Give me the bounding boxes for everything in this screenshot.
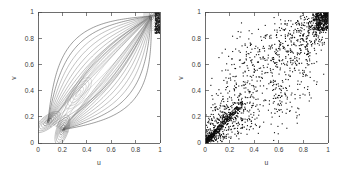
scatter-point [237, 109, 238, 110]
scatter-point [305, 75, 306, 76]
scatter-point [216, 93, 217, 94]
scatter-point [318, 41, 319, 42]
scatter-point [255, 46, 256, 47]
scatter-point [235, 108, 236, 109]
scatter-point [310, 71, 311, 72]
scatter-point [314, 40, 315, 41]
scatter-point [227, 92, 228, 93]
scatter-point [215, 107, 216, 108]
scatter-point [228, 109, 229, 110]
scatter-point [296, 24, 297, 25]
scatter-point [307, 48, 308, 49]
scatter-point [231, 58, 232, 59]
scatter-point [240, 118, 241, 119]
scatter-point [247, 119, 248, 120]
scatter-point [308, 18, 309, 19]
scatter-point [319, 33, 320, 34]
scatter-point [221, 127, 222, 128]
scatter-point [280, 68, 281, 69]
scatter-point [301, 63, 302, 64]
scatter-point [296, 64, 297, 65]
scatter-point [324, 24, 325, 25]
scatter-point [304, 94, 305, 95]
scatter-point [323, 32, 324, 33]
scatter-point [249, 110, 250, 111]
scatter-point [324, 22, 325, 23]
scatter-point [277, 126, 278, 127]
scatter-point [262, 78, 263, 79]
scatter-point [276, 54, 277, 55]
scatter-point [301, 44, 302, 45]
scatter-point [240, 102, 241, 103]
scatter-point [218, 114, 219, 115]
scatter-point [317, 18, 318, 19]
scatter-point [219, 134, 220, 135]
scatter-point [223, 121, 224, 122]
scatter-point [321, 26, 322, 27]
scatter-point [229, 114, 230, 115]
scatter-point [247, 110, 248, 111]
scatter-point [300, 39, 301, 40]
scatter-point [293, 60, 294, 61]
scatter-point [210, 129, 211, 130]
scatter-point [220, 103, 221, 104]
scatter-point [206, 125, 207, 126]
scatter-point [222, 105, 223, 106]
scatter-point [324, 42, 325, 43]
scatter-point [274, 44, 275, 45]
scatter-point [288, 75, 289, 76]
scatter-point [309, 59, 310, 60]
scatter-point [257, 81, 258, 82]
scatter-point [263, 65, 264, 66]
scatter-point [236, 109, 237, 110]
scatter-point [280, 30, 281, 31]
scatter-point [269, 45, 270, 46]
scatter-point [323, 28, 324, 29]
scatter-point [267, 34, 268, 35]
scatter-point [279, 74, 280, 75]
scatter-point [255, 106, 256, 107]
scatter-point [290, 76, 291, 77]
scatter-point [252, 96, 253, 97]
scatter-point [308, 53, 309, 54]
scatter-point [312, 25, 313, 26]
scatter-plot-svg: 0 0.2 0.4 0.6 0.8 1 0 0.2 0.4 0.6 0.8 1 … [171, 0, 343, 172]
scatter-point [299, 48, 300, 49]
scatter-point [307, 89, 308, 90]
scatter-point [258, 115, 259, 116]
scatter-point [297, 108, 298, 109]
scatter-point [226, 138, 227, 139]
scatter-point [215, 110, 216, 111]
scatter-point [270, 35, 271, 36]
scatter-point [251, 59, 252, 60]
scatter-point [250, 52, 251, 53]
scatter-point [288, 79, 289, 80]
scatter-point [260, 36, 261, 37]
scatter-point [287, 35, 288, 36]
scatter-point [258, 29, 259, 30]
scatter-point [317, 23, 318, 24]
scatter-point [221, 115, 222, 116]
scatter-point [248, 89, 249, 90]
scatter-point [240, 133, 241, 134]
figure-canvas: 0 0.2 0.4 0.6 0.8 1 0 0.2 0.4 0.6 0.8 1 … [0, 0, 343, 172]
scatter-point [211, 118, 212, 119]
scatter-point [288, 20, 289, 21]
scatter-point [250, 45, 251, 46]
scatter-point [222, 111, 223, 112]
scatter-point [259, 126, 260, 127]
scatter-point [216, 135, 217, 136]
scatter-point [274, 63, 275, 64]
scatter-point [262, 71, 263, 72]
scatter-point [281, 35, 282, 36]
scatter-point [212, 123, 213, 124]
x-tick-label: 0.8 [131, 146, 140, 153]
scatter-point [232, 51, 233, 52]
scatter-point [246, 56, 247, 57]
scatter-point [211, 133, 212, 134]
scatter-point [239, 36, 240, 37]
scatter-point [317, 16, 318, 17]
scatter-point [234, 121, 235, 122]
scatter-point [235, 119, 236, 120]
scatter-point [210, 85, 211, 86]
